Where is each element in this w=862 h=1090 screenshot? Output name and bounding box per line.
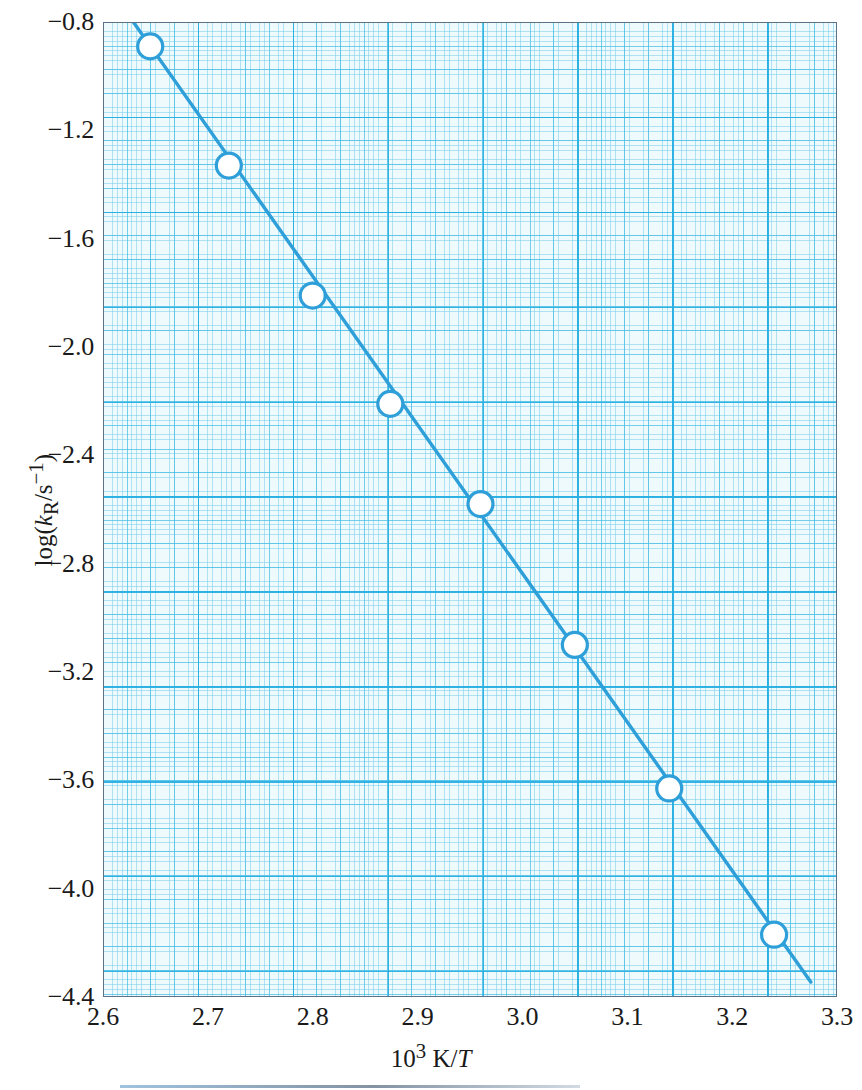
data-point-marker	[378, 391, 403, 416]
y-tick-label: −1.6	[22, 226, 94, 252]
x-tick-label: 2.9	[378, 1004, 458, 1030]
data-point-marker	[300, 283, 325, 308]
data-point-marker	[468, 492, 493, 517]
x-tick-label: 2.6	[63, 1004, 143, 1030]
plot-area	[103, 22, 837, 997]
x-tick-label: 3.0	[482, 1004, 562, 1030]
data-point-marker	[762, 922, 787, 947]
data-point-marker	[562, 632, 587, 657]
page-edge-artifact	[120, 1085, 580, 1088]
y-tick-label: −1.2	[22, 117, 94, 143]
data-point-marker	[657, 776, 682, 801]
data-point-marker	[138, 34, 163, 59]
x-axis-tick-labels: 2.62.72.82.93.03.13.23.3	[0, 1004, 862, 1040]
x-tick-label: 2.7	[168, 1004, 248, 1030]
y-tick-label: −2.0	[22, 334, 94, 360]
y-tick-label: −3.6	[22, 767, 94, 793]
x-axis-title: 103 K/T	[0, 1039, 862, 1073]
x-tick-label: 2.8	[273, 1004, 353, 1030]
x-tick-label: 3.1	[587, 1004, 667, 1030]
y-tick-label: −0.8	[22, 9, 94, 35]
data-point-marker	[216, 153, 241, 178]
x-tick-label: 3.3	[797, 1004, 862, 1030]
y-tick-label: −3.2	[22, 659, 94, 685]
arrhenius-plot-figure: −0.8−1.2−1.6−2.0−2.4−2.8−3.2−3.6−4.0−4.4…	[0, 0, 862, 1090]
x-tick-label: 3.2	[692, 1004, 772, 1030]
y-axis-title: log(kR/s−1)	[24, 380, 64, 640]
data-layer	[103, 22, 837, 997]
y-tick-label: −4.0	[22, 876, 94, 902]
